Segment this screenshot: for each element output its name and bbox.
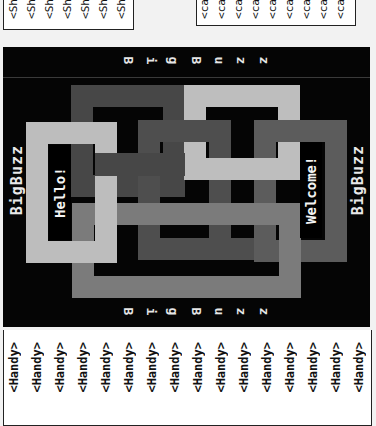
snippet-column: <Handy> — [100, 342, 112, 393]
snippet-column: <Handy> — [31, 342, 43, 393]
snippet-column: <ca — [233, 0, 245, 19]
snippet-column: <Handy> — [330, 342, 342, 393]
letter: B — [188, 54, 203, 68]
letter: z — [256, 54, 271, 68]
snippet-column: <Handy> — [353, 342, 365, 393]
snippet-column: <Sh — [44, 0, 56, 19]
snippet-column: <Handy> — [215, 342, 227, 393]
snippet-column: <Handy> — [77, 342, 89, 393]
snippet-column: <ca — [216, 0, 228, 19]
snippet-column: <ca — [301, 0, 313, 19]
snippet-column: <Sh — [98, 0, 110, 19]
letter: u — [211, 305, 226, 319]
top-letter-strip: B i g B u z z — [121, 53, 271, 68]
code-snippet-top-right: <ca <ca <ca <ca <ca <ca <ca <ca <ca — [196, 0, 356, 26]
frame-light-left — [26, 122, 117, 263]
snippet-column: <Handy> — [123, 342, 135, 393]
snippet-column: <Handy> — [54, 342, 66, 393]
snippet-column: <Sh — [80, 0, 92, 19]
snippet-column: <Sh — [62, 0, 74, 19]
weave-patch — [162, 238, 254, 260]
code-snippet-top-left: <Sh <Sh <Sh <Sh <Sh <Sh <Sh — [3, 0, 134, 30]
snippet-column: <Sh — [8, 0, 20, 19]
snippet-column: <Handy> — [146, 342, 158, 393]
letter: z — [234, 305, 249, 319]
letter: i — [143, 305, 158, 319]
welcome-label: Welcome! — [300, 142, 322, 238]
letter: B — [188, 305, 203, 319]
snippet-column: <ca — [267, 0, 279, 19]
snippet-column: <Handy> — [192, 342, 204, 393]
snippet-column: <Sh — [116, 0, 128, 19]
snippet-column: <ca — [335, 0, 347, 19]
right-brand-text: BigBuzz — [349, 145, 367, 215]
snippet-column: <Handy> — [169, 342, 181, 393]
weave-patch — [185, 158, 278, 180]
letter: i — [143, 54, 158, 68]
snippet-column: <ca — [318, 0, 330, 19]
hello-label: Hello! — [49, 145, 71, 240]
letter: g — [166, 54, 181, 68]
snippet-column: <ca — [284, 0, 296, 19]
letter: u — [211, 54, 226, 68]
divider — [3, 77, 370, 78]
snippet-column: <Handy> — [8, 342, 20, 393]
weave-patch — [95, 153, 185, 176]
left-brand-text: BigBuzz — [8, 145, 26, 215]
snippet-column: <ca — [199, 0, 211, 19]
letter: g — [166, 305, 181, 319]
bottom-letter-strip: B i g B u z z — [121, 304, 271, 319]
snippet-column: <Sh — [26, 0, 38, 19]
letter: z — [256, 305, 271, 319]
snippet-column: <Handy> — [307, 342, 319, 393]
snippet-column: <Handy> — [238, 342, 250, 393]
snippet-column: <Handy> — [284, 342, 296, 393]
letter: B — [121, 305, 136, 319]
bigbuzz-poster: B i g B u z z Hello! Welcome! BigBuzz Bi… — [3, 47, 370, 327]
letter: z — [234, 54, 249, 68]
letter: B — [121, 54, 136, 68]
snippet-column: <Handy> — [261, 342, 273, 393]
snippet-column: <ca — [250, 0, 262, 19]
code-snippet-bottom: <Handy> <Handy> <Handy> <Handy> <Handy> … — [3, 330, 372, 426]
